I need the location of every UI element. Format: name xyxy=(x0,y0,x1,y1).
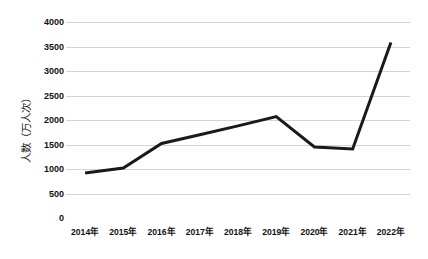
y-tick-label: 1500 xyxy=(26,140,64,150)
x-axis-tick-labels: 2014年2015年2016年2017年2018年2019年2020年2021年… xyxy=(66,226,410,240)
y-tick-label: 4000 xyxy=(26,17,64,27)
y-tick-label: 1000 xyxy=(26,164,64,174)
figure-caption xyxy=(0,251,428,259)
plot-area xyxy=(66,22,410,218)
y-tick-label: 2500 xyxy=(26,91,64,101)
y-tick-label: 0 xyxy=(26,213,64,223)
x-tick-label: 2022年 xyxy=(367,226,415,238)
y-tick-label: 3500 xyxy=(26,42,64,52)
series-polyline xyxy=(85,43,391,173)
gridline xyxy=(66,218,410,219)
y-tick-label: 500 xyxy=(26,189,64,199)
y-tick-label: 2000 xyxy=(26,115,64,125)
y-tick-label: 3000 xyxy=(26,66,64,76)
y-axis-tick-labels: 05001000150020002500300035004000 xyxy=(26,0,64,259)
data-series-line xyxy=(66,22,410,218)
line-chart-figure: 人数（万人次） 05001000150020002500300035004000… xyxy=(0,0,428,259)
